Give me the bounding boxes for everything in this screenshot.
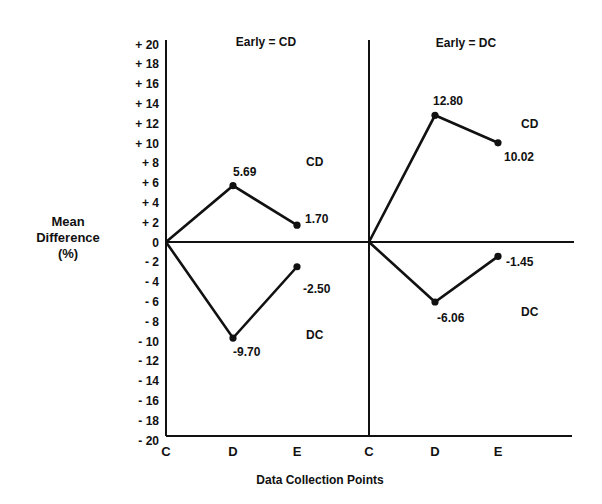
y-tick-label: + 18 [135, 57, 159, 71]
panel-title-right: Early = DC [436, 36, 497, 50]
y-tick-label: - 20 [138, 434, 159, 448]
series-label-right-cd: CD [521, 117, 539, 131]
y-tick-label: 0 [152, 236, 159, 250]
data-point [494, 253, 501, 260]
x-tick-label: D [228, 444, 237, 459]
data-label: 12.80 [433, 94, 463, 108]
data-point [431, 112, 438, 119]
y-tick-label: + 14 [135, 97, 159, 111]
y-tick-label: - 14 [138, 374, 159, 388]
y-axis-label: MeanDifference(%) [36, 214, 100, 261]
x-tick-label: E [494, 444, 503, 459]
y-tick-label: - 4 [145, 275, 159, 289]
y-tick-label: - 8 [145, 315, 159, 329]
series-lines: 5.691.70-9.70-2.5012.8010.02-6.06-1.45 [166, 94, 534, 359]
data-point [431, 298, 438, 305]
x-tick-label: C [364, 444, 374, 459]
y-tick-label: + 16 [135, 77, 159, 91]
y-tick-label: - 10 [138, 335, 159, 349]
y-axis-label-line: Mean [51, 214, 84, 229]
series-line-cd [369, 115, 498, 242]
y-tick-label: + 20 [135, 38, 159, 52]
x-tick-label: C [161, 444, 171, 459]
y-tick-labels: + 20+ 18+ 16+ 14+ 12+ 10+ 8+ 6+ 4+ 20- 2… [135, 38, 159, 448]
x-tick-label: D [430, 444, 439, 459]
data-point [229, 182, 236, 189]
data-point [293, 222, 300, 229]
y-tick-label: + 2 [142, 216, 159, 230]
y-axis-label-line: Difference [36, 230, 100, 245]
y-tick-label: - 12 [138, 354, 159, 368]
series-line-cd [166, 186, 297, 242]
data-point [293, 263, 300, 270]
y-tick-label: - 16 [138, 394, 159, 408]
line-chart: + 20+ 18+ 16+ 14+ 12+ 10+ 8+ 6+ 4+ 20- 2… [0, 0, 602, 504]
series-line-dc [166, 242, 297, 338]
y-tick-label: - 6 [145, 295, 159, 309]
series-label-left-cd: CD [306, 155, 324, 169]
data-point [229, 334, 236, 341]
data-label: -2.50 [303, 282, 331, 296]
panel-title-left: Early = CD [236, 35, 297, 49]
data-label: -6.06 [437, 311, 465, 325]
y-tick-label: + 6 [142, 176, 159, 190]
series-line-dc [369, 242, 498, 302]
data-label: 1.70 [305, 212, 329, 226]
y-tick-label: - 2 [145, 255, 159, 269]
y-axis-label-line: (%) [58, 246, 78, 261]
x-tick-label: E [293, 444, 302, 459]
data-label: 10.02 [504, 150, 534, 164]
series-label-left-dc: DC [306, 328, 324, 342]
series-label-right-dc: DC [521, 305, 539, 319]
y-tick-label: - 18 [138, 414, 159, 428]
y-tick-label: + 4 [142, 196, 159, 210]
y-tick-label: + 8 [142, 156, 159, 170]
x-tick-labels: CDECDE [161, 444, 502, 459]
data-label: -9.70 [233, 345, 261, 359]
data-point [494, 139, 501, 146]
data-label: -1.45 [506, 255, 534, 269]
x-axis-label: Data Collection Points [256, 473, 384, 487]
y-tick-label: + 12 [135, 117, 159, 131]
y-tick-label: + 10 [135, 137, 159, 151]
data-label: 5.69 [233, 165, 257, 179]
